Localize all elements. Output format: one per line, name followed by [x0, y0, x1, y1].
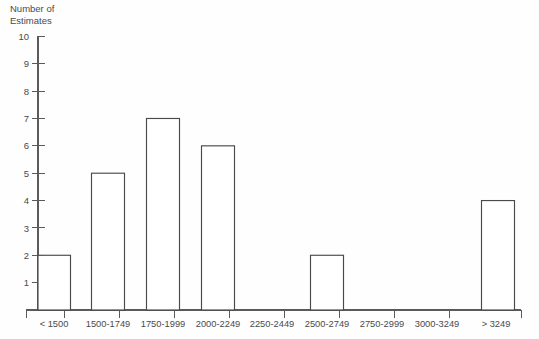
x-tick-label: 2750-2999: [360, 319, 404, 329]
y-tick-label: 3: [24, 223, 29, 234]
y-tick-label: 5: [24, 168, 29, 179]
x-tick-label: 3000-3249: [415, 319, 459, 329]
histogram-chart-page: Number of Estimates 10 9 8 7 6 5 4: [0, 0, 539, 339]
bar: [147, 118, 180, 310]
y-axis-tick-labels: 10 9 8 7 6 5 4 3 2 1: [18, 31, 29, 288]
y-tick-label: 6: [24, 140, 29, 151]
y-tick-label: 10: [18, 31, 29, 42]
bar: [92, 173, 125, 310]
x-tick-label: 2000-2249: [196, 319, 240, 329]
y-tick-label: 2: [24, 250, 29, 261]
x-tick-label: 1500-1749: [86, 319, 130, 329]
bars-group: [38, 118, 515, 310]
bar: [482, 201, 515, 310]
y-axis-title-line1: Number of: [10, 3, 55, 14]
y-tick-label: 7: [24, 113, 29, 124]
bar: [311, 255, 344, 310]
x-axis-ticks: [26, 310, 521, 318]
x-tick-label: 2250-2449: [250, 319, 294, 329]
x-axis-tick-labels: < 1500 1500-1749 1750-1999 2000-2249 225…: [40, 319, 511, 329]
bar: [202, 146, 235, 310]
y-axis-title-line2: Estimates: [10, 15, 52, 26]
y-tick-label: 9: [24, 58, 29, 69]
x-tick-label: < 1500: [40, 319, 69, 329]
x-tick-label: 1750-1999: [141, 319, 185, 329]
x-tick-label: > 3249: [482, 319, 511, 329]
y-tick-label: 1: [24, 277, 29, 288]
chart-canvas: Number of Estimates 10 9 8 7 6 5 4: [0, 0, 539, 339]
x-tick-label: 2500-2749: [305, 319, 349, 329]
y-tick-label: 4: [24, 195, 29, 206]
bar: [38, 255, 71, 310]
y-tick-label: 8: [24, 86, 29, 97]
